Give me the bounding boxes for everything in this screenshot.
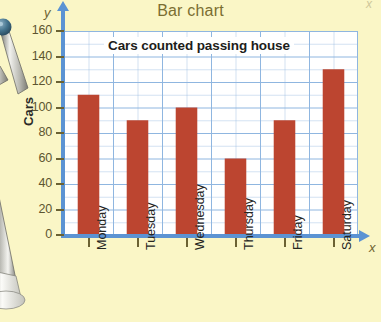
x-category-label: Tuesday — [144, 203, 158, 250]
y-tick-label: 20 — [22, 202, 52, 216]
y-tick-label: 120 — [22, 74, 52, 88]
x-category-label: Saturday — [340, 200, 354, 250]
y-tick-label: 80 — [22, 125, 52, 139]
y-tick-mark — [56, 234, 64, 236]
x-category-label: Monday — [95, 206, 109, 250]
bars-group — [64, 31, 358, 235]
x-tick-mark — [137, 238, 139, 247]
y-tick-mark — [56, 183, 64, 185]
plot-area — [64, 31, 358, 235]
y-tick-mark — [56, 56, 64, 58]
axis-letter-x: x — [369, 240, 376, 255]
compass-leg-icon — [0, 176, 40, 322]
y-axis-arrow — [57, 1, 69, 11]
y-tick-label: 40 — [22, 176, 52, 190]
x-tick-mark — [88, 238, 90, 247]
x-tick-mark — [333, 238, 335, 247]
y-tick-label: 0 — [22, 227, 52, 241]
x-category-label: Wednesday — [193, 184, 207, 250]
axis-letter-y: y — [44, 5, 51, 20]
y-tick-mark — [56, 107, 64, 109]
y-axis-line — [61, 8, 65, 238]
axis-letter-x-top: x — [366, 0, 372, 11]
x-axis-arrow — [359, 230, 370, 242]
x-category-label: Thursday — [242, 198, 256, 250]
x-tick-mark — [235, 238, 237, 247]
x-tick-mark — [186, 238, 188, 247]
y-tick-label: 160 — [22, 23, 52, 37]
plot-caption: Cars counted passing house — [104, 37, 294, 54]
bar-chart-figure: Bar chart x y x Cars Cars counted passin… — [0, 0, 381, 322]
y-tick-label: 100 — [22, 100, 52, 114]
x-tick-mark — [284, 238, 286, 247]
y-tick-mark — [56, 81, 64, 83]
y-tick-mark — [56, 158, 64, 160]
y-tick-mark — [56, 132, 64, 134]
y-tick-label: 60 — [22, 151, 52, 165]
y-tick-label: 140 — [22, 49, 52, 63]
x-category-label: Friday — [291, 215, 305, 250]
y-tick-mark — [56, 209, 64, 211]
y-tick-mark — [56, 30, 64, 32]
